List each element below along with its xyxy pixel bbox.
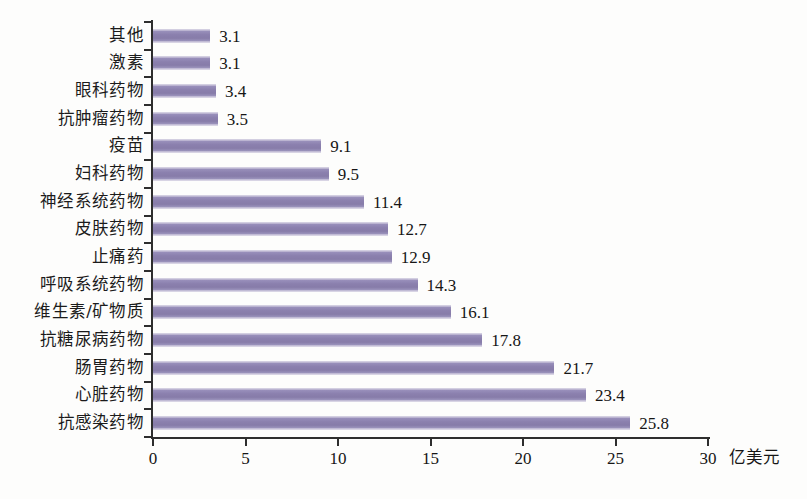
y-axis-tick [144, 76, 153, 78]
x-axis-tick [430, 437, 432, 446]
category-label: 皮肤药物 [75, 221, 144, 238]
bar-value-label: 3.5 [227, 110, 248, 127]
bar-row: 抗感染药物25.8 [153, 409, 708, 437]
bar [153, 168, 329, 181]
bar [153, 251, 392, 264]
category-label: 抗肿瘤药物 [58, 111, 145, 128]
bar-chart: 其他3.1激素3.1眼科药物3.4抗肿瘤药物3.5疫苗9.1妇科药物9.5神经系… [0, 0, 807, 499]
bar-row: 眼科药物3.4 [153, 77, 708, 105]
bar-value-label: 3.4 [225, 83, 246, 100]
y-axis-tick [144, 49, 153, 51]
y-axis-tick [144, 187, 153, 189]
bar-value-label: 9.1 [330, 138, 351, 155]
category-label: 其他 [109, 28, 144, 45]
bar [153, 223, 388, 236]
category-label: 心脏药物 [75, 387, 144, 404]
bar-value-label: 25.8 [639, 415, 669, 432]
bar [153, 140, 321, 153]
bar-value-label: 21.7 [563, 359, 593, 376]
category-label: 眼科药物 [75, 83, 144, 100]
bar-row: 激素3.1 [153, 50, 708, 78]
y-axis-tick [144, 270, 153, 272]
bar-value-label: 11.4 [373, 193, 402, 210]
bar-row: 维生素/矿物质16.1 [153, 299, 708, 327]
x-axis-tick [522, 437, 524, 446]
category-label: 疫苗 [109, 138, 144, 155]
bar [153, 417, 630, 430]
y-axis-tick [144, 215, 153, 217]
x-axis-tick [152, 437, 154, 446]
x-axis-tick-label: 10 [330, 450, 347, 467]
category-label: 抗感染药物 [58, 415, 145, 432]
category-label: 止痛药 [92, 249, 144, 266]
category-label: 维生素/矿物质 [34, 304, 144, 321]
bar [153, 57, 210, 70]
y-axis-tick [144, 325, 153, 327]
y-axis-tick [144, 408, 153, 410]
y-axis-tick [144, 104, 153, 106]
y-axis-tick [144, 132, 153, 134]
y-axis-tick [144, 21, 153, 23]
bar-row: 止痛药12.9 [153, 243, 708, 271]
category-label: 激素 [109, 55, 144, 72]
bar-value-label: 3.1 [219, 27, 240, 44]
bar-row: 心脏药物23.4 [153, 382, 708, 410]
category-label: 妇科药物 [75, 166, 144, 183]
bar-row: 肠胃药物21.7 [153, 354, 708, 382]
x-axis-tick [615, 437, 617, 446]
bar-row: 抗糖尿病药物17.8 [153, 326, 708, 354]
bar [153, 389, 586, 402]
bar [153, 29, 210, 42]
x-axis-tick-label: 15 [422, 450, 439, 467]
x-axis-unit-label: 亿美元 [729, 450, 780, 467]
y-axis-tick [144, 298, 153, 300]
bar-value-label: 16.1 [460, 304, 490, 321]
x-axis-tick-label: 0 [149, 450, 158, 467]
category-label: 呼吸系统药物 [40, 277, 144, 294]
category-label: 肠胃药物 [75, 360, 144, 377]
bar-row: 妇科药物9.5 [153, 160, 708, 188]
bar-row: 呼吸系统药物14.3 [153, 271, 708, 299]
bar-value-label: 12.9 [401, 249, 431, 266]
y-axis-tick [144, 242, 153, 244]
x-axis-tick-label: 20 [515, 450, 532, 467]
bar [153, 278, 418, 291]
bar [153, 361, 554, 374]
bar-value-label: 12.7 [397, 221, 427, 238]
bar [153, 306, 451, 319]
x-axis-tick-label: 30 [700, 450, 717, 467]
bar-row: 皮肤药物12.7 [153, 216, 708, 244]
bar-row: 其他3.1 [153, 22, 708, 50]
x-axis-tick [337, 437, 339, 446]
bar [153, 195, 364, 208]
bar-value-label: 14.3 [427, 276, 457, 293]
x-axis-tick [707, 437, 709, 446]
bar-row: 抗肿瘤药物3.5 [153, 105, 708, 133]
bar [153, 112, 218, 125]
plot-area: 其他3.1激素3.1眼科药物3.4抗肿瘤药物3.5疫苗9.1妇科药物9.5神经系… [153, 22, 708, 437]
bar-row: 神经系统药物11.4 [153, 188, 708, 216]
bar-value-label: 9.5 [338, 166, 359, 183]
y-axis-tick [144, 159, 153, 161]
category-label: 神经系统药物 [40, 194, 144, 211]
x-axis-tick-label: 5 [241, 450, 250, 467]
bar [153, 334, 482, 347]
figure-caption [0, 488, 807, 499]
bar-value-label: 23.4 [595, 387, 625, 404]
x-axis-tick [245, 437, 247, 446]
y-axis-tick [144, 353, 153, 355]
bar-value-label: 17.8 [491, 332, 521, 349]
bar-rows: 其他3.1激素3.1眼科药物3.4抗肿瘤药物3.5疫苗9.1妇科药物9.5神经系… [153, 22, 708, 437]
x-axis-tick-label: 25 [607, 450, 624, 467]
bar-value-label: 3.1 [219, 55, 240, 72]
y-axis-tick [144, 381, 153, 383]
bar [153, 85, 216, 98]
category-label: 抗糖尿病药物 [40, 332, 144, 349]
bar-row: 疫苗9.1 [153, 133, 708, 161]
